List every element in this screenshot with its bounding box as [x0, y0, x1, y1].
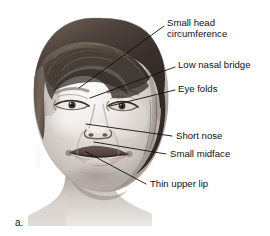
artist-signature: Hagen: [33, 145, 42, 168]
label-small-head-circumference-line2: circumference: [167, 29, 227, 40]
label-small-midface: Small midface: [170, 149, 230, 160]
label-eye-folds: Eye folds: [178, 84, 217, 95]
figure-caption: a.: [15, 217, 23, 228]
figure-container: Small headcircumferenceLow nasal bridgeE…: [0, 0, 270, 236]
label-small-head-circumference: Small headcircumference: [167, 18, 227, 39]
label-low-nasal-bridge: Low nasal bridge: [178, 60, 251, 71]
face-illustration: [0, 0, 270, 236]
label-thin-upper-lip: Thin upper lip: [150, 179, 208, 190]
label-short-nose: Short nose: [176, 131, 222, 142]
